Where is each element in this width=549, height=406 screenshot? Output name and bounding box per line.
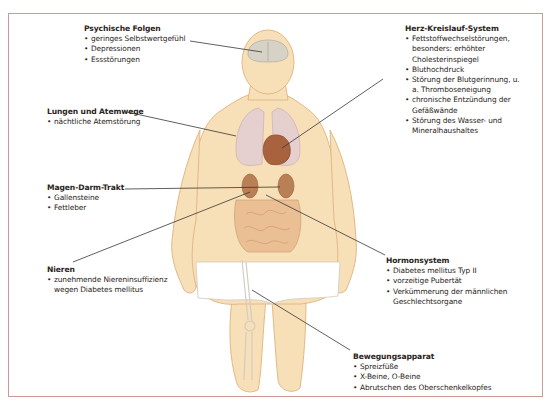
- callout-herz-kreislauf-system: Herz-Kreislauf-System Fettstoffwechselst…: [405, 24, 523, 136]
- heart: [263, 135, 290, 165]
- callout-item: Fettleber: [47, 203, 124, 213]
- callout-title: Hormonsystem: [386, 256, 536, 266]
- callout-title: Herz-Kreislauf-System: [405, 24, 523, 34]
- callout-item: Depressionen: [84, 44, 185, 54]
- underwear: [196, 262, 340, 304]
- callout-magen-darm-trakt: Magen-Darm-Trakt Gallensteine Fettleber: [47, 183, 124, 214]
- callout-title: Bewegungsapparat: [353, 352, 533, 362]
- callout-hormonsystem: Hormonsystem Diabetes mellitus Typ II vo…: [386, 256, 536, 307]
- callout-item: Gallensteine: [47, 193, 124, 203]
- callout-item: Fettstoffwechselstörungen, besonders: er…: [405, 34, 523, 65]
- callout-title: Magen-Darm-Trakt: [47, 183, 124, 193]
- callout-nieren: Nieren zunehmende Niereninsuffizienz weg…: [47, 265, 177, 296]
- callout-item: vorzeitige Pubertät: [386, 276, 536, 286]
- callout-psychische-folgen: Psychische Folgen geringes Selbstwertgef…: [84, 24, 185, 65]
- callout-item: X-Beine, O-Beine: [353, 372, 533, 382]
- callout-item: Bluthochdruck: [405, 65, 523, 75]
- callout-item: Störung der Blutgerinnung, u. a. Thrombo…: [405, 75, 523, 95]
- callout-item: Störung des Wasser- und Mineralhaushalte…: [405, 116, 523, 136]
- callout-item: geringes Selbstwertgefühl: [84, 34, 185, 44]
- callout-item: zunehmende Niereninsuffizienz wegen Diab…: [47, 275, 177, 295]
- callout-item: Verkümmerung der männlichen Geschlechtso…: [386, 287, 536, 307]
- callout-item: chronische Entzündung der Gefäßwände: [405, 95, 523, 115]
- callout-lungen-atemwege: Lungen und Atemwege nächtliche Atemstöru…: [47, 107, 144, 127]
- callout-title: Lungen und Atemwege: [47, 107, 144, 117]
- callout-item: Spreizfüße: [353, 362, 533, 372]
- callout-item: Abrutschen des Oberschenkelkopfes: [353, 383, 533, 393]
- callout-item: Diabetes mellitus Typ II: [386, 266, 536, 276]
- callout-bewegungsapparat: Bewegungsapparat Spreizfüße X-Beine, O-B…: [353, 352, 533, 393]
- callout-item: nächtliche Atemstörung: [47, 117, 144, 127]
- callout-item: Essstörungen: [84, 55, 185, 65]
- callout-title: Psychische Folgen: [84, 24, 185, 34]
- callout-title: Nieren: [47, 265, 177, 275]
